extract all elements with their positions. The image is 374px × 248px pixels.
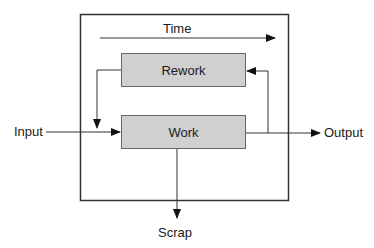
rework-label: Rework bbox=[121, 53, 246, 87]
work-label: Work bbox=[121, 115, 246, 149]
work-to-rework-arrow bbox=[247, 71, 268, 133]
input-label: Input bbox=[14, 125, 43, 138]
scrap-label: Scrap bbox=[158, 226, 192, 239]
time-label: Time bbox=[163, 22, 191, 35]
system-boundary-box bbox=[81, 15, 289, 201]
rework-to-work-arrow bbox=[97, 70, 121, 128]
output-label: Output bbox=[324, 126, 363, 139]
